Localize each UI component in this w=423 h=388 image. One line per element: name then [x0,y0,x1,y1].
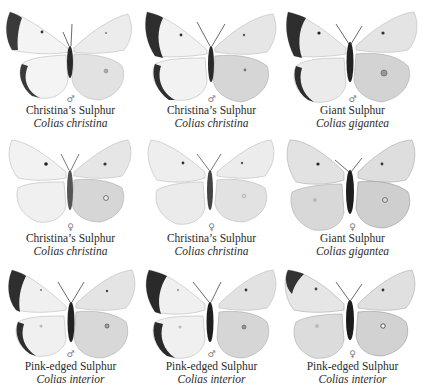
specimen-cell: ♂ Pink-edged Sulphur Colias interior [141,260,282,388]
scientific-name: Colias christina [0,245,141,258]
common-name: Giant Sulphur [282,232,423,245]
common-name: Pink-edged Sulphur [282,360,423,373]
scientific-name: Colias gigantea [282,245,423,258]
sex-symbol: ♂ [141,94,282,104]
scientific-name: Colias christina [141,117,282,130]
specimen-cell: ♂ Christina’s Sulphur Colias christina [0,0,141,130]
sex-symbol: ♂ [141,349,282,359]
sex-symbol: ♀ [0,222,141,232]
specimen-cell: ♀ Christina’s Sulphur Colias christina [0,130,141,260]
sex-symbol: ♀ [282,222,423,232]
common-name: Pink-edged Sulphur [0,360,141,373]
specimen-cell: ♂ Christina’s Sulphur Colias christina [141,0,282,130]
common-name: Christina’s Sulphur [141,232,282,245]
common-name: Christina’s Sulphur [0,104,141,117]
sex-symbol: ♀ [282,349,423,359]
sex-symbol: ♂ [0,349,141,359]
common-name: Giant Sulphur [282,104,423,117]
scientific-name: Colias christina [141,245,282,258]
specimen-cell: ♂ Giant Sulphur Colias gigantea [282,0,423,130]
butterfly-plate: ♂ Christina’s Sulphur Colias christina ♂… [0,0,423,388]
sex-symbol: ♀ [141,222,282,232]
common-name: Christina’s Sulphur [141,104,282,117]
specimen-cell: ♀ Giant Sulphur Colias gigantea [282,130,423,260]
common-name: Pink-edged Sulphur [141,360,282,373]
specimen-cell: ♀ Pink-edged Sulphur Colias interior [282,260,423,388]
specimen-cell: ♀ Christina’s Sulphur Colias christina [141,130,282,260]
scientific-name: Colias interior [282,373,423,386]
scientific-name: Colias gigantea [282,117,423,130]
scientific-name: Colias interior [141,373,282,386]
specimen-cell: ♂ Pink-edged Sulphur Colias interior [0,260,141,388]
scientific-name: Colias christina [0,117,141,130]
sex-symbol: ♂ [282,94,423,104]
sex-symbol: ♂ [0,94,141,104]
common-name: Christina’s Sulphur [0,232,141,245]
scientific-name: Colias interior [0,373,141,386]
